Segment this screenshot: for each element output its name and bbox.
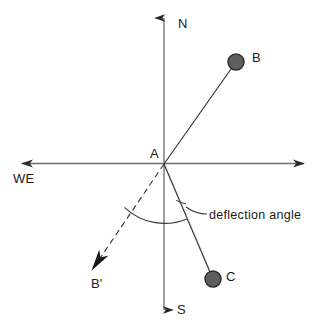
line-a-to-bprime: [92, 164, 164, 270]
deflection-angle-leader-line: [186, 207, 207, 214]
label-point-a: A: [150, 147, 159, 160]
label-south: S: [177, 303, 186, 316]
deflection-angle-arc: [125, 207, 187, 223]
label-point-b: B: [252, 51, 261, 64]
line-a-to-c: [164, 164, 210, 272]
point-marker-c: [205, 271, 221, 287]
label-point-b-prime: B': [91, 277, 103, 290]
label-north: N: [178, 17, 188, 30]
line-a-to-b: [164, 69, 231, 164]
label-deflection-angle: deflection angle: [209, 209, 301, 222]
label-point-c: C: [226, 270, 236, 283]
diagram-canvas: N S WE A B C B' deflection angle: [0, 0, 324, 335]
point-marker-b: [228, 54, 244, 70]
deflection-angle-figure: [0, 0, 324, 335]
label-west-east: WE: [13, 172, 34, 185]
